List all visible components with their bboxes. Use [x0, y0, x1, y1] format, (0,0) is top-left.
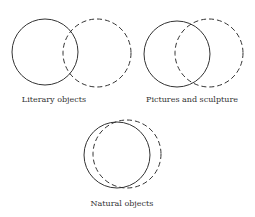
dashed-circle	[63, 19, 131, 87]
solid-circle	[144, 21, 210, 87]
label-literary-objects: Literary objects	[22, 95, 86, 104]
natural-objects-diagram	[84, 120, 161, 188]
dashed-circle	[93, 120, 161, 188]
venn-diagrams	[0, 0, 255, 217]
pictures-sculpture-diagram	[144, 19, 243, 87]
label-pictures-sculpture: Pictures and sculpture	[146, 95, 238, 104]
solid-circle	[12, 19, 78, 85]
solid-circle	[84, 122, 150, 188]
literary-objects-diagram	[12, 19, 131, 87]
label-natural-objects: Natural objects	[91, 199, 154, 208]
dashed-circle	[175, 19, 243, 87]
